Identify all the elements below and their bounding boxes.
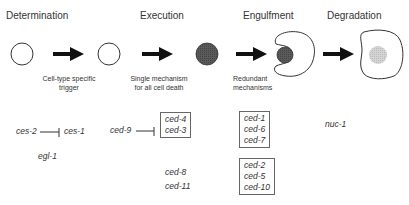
gene-ced-4: ced-4 <box>165 114 186 125</box>
arrow-icon <box>142 47 173 61</box>
arrow-icon <box>323 47 354 61</box>
note-line: Redundant <box>233 74 272 83</box>
note-line: Single mechanism <box>124 74 194 83</box>
arrow-icon <box>53 47 84 61</box>
note-line: trigger <box>34 83 104 92</box>
gene-ces-2: ces-2 <box>16 126 37 137</box>
gene-ced-2: ced-2 <box>244 160 270 171</box>
gene-ced-1: ced-1 <box>244 113 265 124</box>
gene-ced-11: ced-11 <box>165 181 190 192</box>
stage-title-execution: Execution <box>140 10 184 21</box>
note-line: Cell-type specific <box>34 74 104 83</box>
note-line: for all cell death <box>124 83 194 92</box>
committed-cell-icon <box>98 43 120 65</box>
gene-ced-7: ced-7 <box>244 135 265 146</box>
gene-ced-3: ced-3 <box>165 125 186 136</box>
stage-note-determination: Cell-type specific trigger <box>34 74 104 92</box>
gene-ced-5: ced-5 <box>244 171 270 182</box>
gene-ces-1: ces-1 <box>64 126 85 137</box>
note-line: mechanisms <box>233 83 272 92</box>
inhibition-icon <box>136 127 154 136</box>
engulfed-cell-icon <box>277 47 293 63</box>
gene-box-ced-2-5-10: ced-2 ced-5 ced-10 <box>239 158 275 195</box>
gene-ced-6: ced-6 <box>244 124 265 135</box>
stage-title-engulfment: Engulfment <box>243 10 294 21</box>
gene-ced-8: ced-8 <box>165 167 186 178</box>
gene-box-ced-1-6-7: ced-1 ced-6 ced-7 <box>239 111 270 148</box>
inhibition-icon <box>40 128 59 137</box>
stage-note-engulfment: Redundant mechanisms <box>233 74 272 92</box>
gene-egl-1: egl-1 <box>38 151 57 162</box>
stage-title-degradation: Degradation <box>327 10 381 21</box>
gene-ced-10: ced-10 <box>244 182 270 193</box>
arrow-icon <box>236 47 267 61</box>
gene-box-ced-4-ced-3: ced-4 ced-3 <box>160 112 191 138</box>
pathway-graphics <box>0 0 409 205</box>
gene-ced-9: ced-9 <box>110 125 131 136</box>
degraded-corpse-icon <box>369 46 387 64</box>
stage-note-execution: Single mechanism for all cell death <box>124 74 194 92</box>
gene-nuc-1: nuc-1 <box>325 119 346 130</box>
normal-cell-icon <box>11 43 33 65</box>
stage-title-determination: Determination <box>6 10 68 21</box>
dying-cell-icon <box>196 43 218 65</box>
